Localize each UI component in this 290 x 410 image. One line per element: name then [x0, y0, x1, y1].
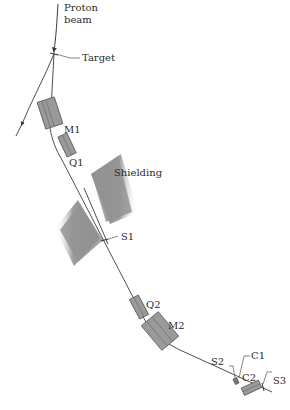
quadrupole-q1: [58, 133, 76, 157]
label-c2: C2: [242, 372, 256, 383]
shielding-lower-block-main: [60, 204, 103, 262]
counter-s2: [229, 366, 239, 385]
magnet-m2: [141, 312, 178, 351]
label-s3: S3: [273, 375, 286, 386]
label-q2: Q2: [146, 299, 161, 310]
label-c1: C1: [251, 350, 265, 361]
label-shielding: Shielding: [114, 167, 163, 178]
label-s2: S2: [211, 356, 224, 367]
beamline-diagram: Proton beam Target M1 Q1 Shielding S1 Q2…: [0, 0, 290, 410]
label-target: Target: [82, 52, 115, 63]
label-proton-beam-2: beam: [64, 14, 92, 25]
label-proton-beam-1: Proton: [64, 2, 99, 13]
target-marker: [50, 53, 80, 58]
shielding-upper-block-main: [92, 156, 132, 222]
counter-s3: [262, 372, 272, 391]
label-s1: S1: [121, 231, 134, 242]
proton-beam-path: [54, 4, 58, 50]
label-m2: M2: [168, 320, 185, 331]
magnet-m1: [37, 97, 63, 129]
label-q1: Q1: [69, 157, 84, 168]
label-m1: M1: [64, 124, 81, 135]
